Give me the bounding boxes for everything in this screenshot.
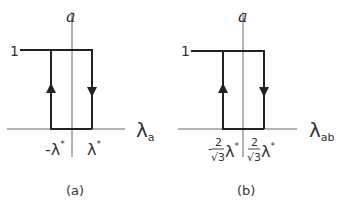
panel-a: a 1 λa -λ* λ* (a) bbox=[7, 7, 155, 198]
pos-lambda-tick: 2 √3 λ* bbox=[247, 136, 275, 164]
y-tick-label: 1 bbox=[10, 43, 19, 59]
svg-text:√3: √3 bbox=[211, 151, 225, 164]
svg-text:2: 2 bbox=[251, 136, 258, 149]
hysteresis-loop bbox=[20, 50, 92, 129]
hysteresis-diagrams: a 1 λa -λ* λ* (a) a 1 λab - 2 √3 λ* 2 √3… bbox=[0, 0, 346, 210]
x-axis-label: λab bbox=[309, 118, 335, 144]
svg-text:λ*: λ* bbox=[225, 141, 239, 161]
panel-b: a 1 λab - 2 √3 λ* 2 √3 λ* (b) bbox=[178, 7, 335, 198]
caption-a: (a) bbox=[66, 183, 84, 198]
caption-b: (b) bbox=[237, 183, 255, 198]
neg-lambda-tick: - 2 √3 λ* bbox=[208, 136, 239, 164]
svg-text:λ*: λ* bbox=[261, 141, 275, 161]
y-tick-label: 1 bbox=[181, 43, 190, 59]
pos-lambda-tick: λ* bbox=[87, 139, 101, 159]
neg-lambda-tick: -λ* bbox=[45, 139, 65, 159]
hysteresis-loop bbox=[191, 51, 264, 129]
y-axis-label: a bbox=[66, 7, 76, 26]
svg-text:2: 2 bbox=[215, 136, 222, 149]
x-axis-label: λa bbox=[136, 118, 155, 144]
svg-text:√3: √3 bbox=[247, 151, 261, 164]
y-axis-label: a bbox=[238, 7, 248, 26]
